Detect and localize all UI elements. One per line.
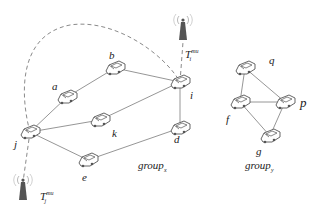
node-label-j: j xyxy=(14,139,17,150)
car-icon-g xyxy=(261,129,280,143)
node-label-i: i xyxy=(190,90,193,101)
node-label-b: b xyxy=(109,50,115,61)
car-icon-q xyxy=(236,61,255,75)
group-label-y: groupy xyxy=(245,160,274,173)
tower-label-i: Tmui xyxy=(185,48,191,62)
node-label-a: a xyxy=(52,81,58,92)
node-label-k: k xyxy=(112,128,117,139)
car-icon-f xyxy=(231,95,250,109)
node-label-g: g xyxy=(256,146,262,157)
car-icon-i xyxy=(171,75,190,89)
tower-label-j: Tmuj xyxy=(40,190,46,204)
node-label-f: f xyxy=(226,114,229,125)
car-icon-b xyxy=(106,61,125,75)
car-icon-e xyxy=(79,153,98,167)
node-label-q: q xyxy=(269,55,275,66)
car-icon-a xyxy=(58,90,77,104)
dashed-link-j-tower xyxy=(23,132,30,182)
cell-tower-icon-i xyxy=(174,14,193,40)
car-icon-k xyxy=(91,113,110,127)
node-label-p: p xyxy=(300,96,307,109)
node-label-d: d xyxy=(174,134,180,145)
node-label-e: e xyxy=(82,172,87,183)
cell-tower-icon-j xyxy=(14,174,33,200)
network-diagram xyxy=(0,0,321,211)
car-icon-j xyxy=(21,125,40,139)
group-label-x: groupx xyxy=(138,160,167,173)
